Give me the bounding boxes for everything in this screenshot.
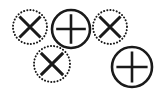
dotted-x-circle-top-right xyxy=(93,10,127,44)
diagram-canvas xyxy=(0,0,168,110)
dotted-x-circle-top-left xyxy=(13,10,47,44)
circle-symbol-diagram xyxy=(0,0,168,110)
solid-plus-circle-top-center xyxy=(52,10,90,48)
dotted-x-circle-bottom-left xyxy=(34,46,70,82)
nodes-layer xyxy=(13,10,152,87)
solid-plus-circle-bottom-right xyxy=(112,47,152,87)
